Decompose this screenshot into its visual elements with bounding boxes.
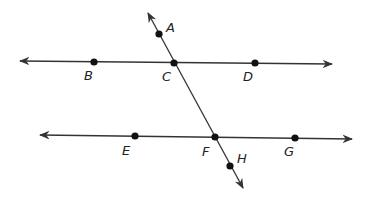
point-label-e: E bbox=[122, 143, 131, 158]
point-label-c: C bbox=[162, 69, 172, 84]
point-g bbox=[291, 134, 298, 141]
point-label-g: G bbox=[284, 144, 294, 159]
transversal-line bbox=[148, 13, 243, 188]
point-b bbox=[90, 58, 97, 65]
bottom-parallel-line bbox=[40, 135, 352, 139]
point-d bbox=[251, 59, 258, 66]
point-c bbox=[170, 59, 177, 66]
points-layer: ABCDEFGH bbox=[84, 20, 299, 170]
point-label-d: D bbox=[243, 69, 253, 84]
point-h bbox=[226, 162, 233, 169]
point-label-a: A bbox=[165, 20, 175, 35]
point-label-b: B bbox=[84, 68, 93, 83]
point-label-h: H bbox=[237, 151, 247, 166]
point-label-f: F bbox=[202, 144, 210, 159]
point-f bbox=[211, 133, 218, 140]
lines-layer bbox=[20, 13, 352, 188]
point-e bbox=[131, 132, 138, 139]
parallel-lines-transversal-diagram: ABCDEFGH bbox=[0, 0, 369, 201]
point-a bbox=[155, 30, 162, 37]
